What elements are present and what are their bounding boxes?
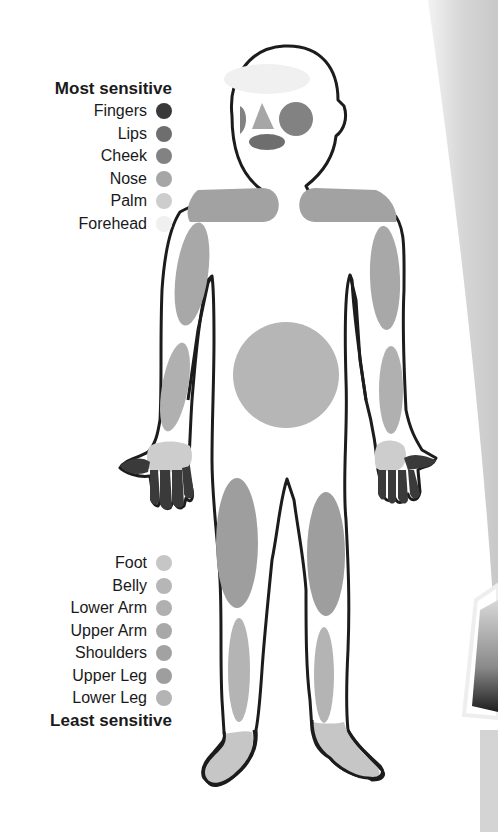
legend-title-least-sensitive: Least sensitive: [50, 710, 172, 732]
legend-label: Nose: [110, 170, 147, 188]
lips-region: [249, 134, 285, 150]
legend-label: Fingers: [94, 102, 147, 120]
legend-item-forehead: Forehead: [55, 213, 172, 236]
shoulder-region-left: [188, 188, 279, 222]
legend-dot-icon: [156, 555, 172, 571]
legend-dot-icon: [156, 103, 172, 119]
legend-item-fingers: Fingers: [55, 100, 172, 123]
shoulder-region-right: [299, 188, 396, 222]
legend-dot-icon: [156, 668, 172, 684]
legend-label: Foot: [115, 554, 147, 572]
legend-label: Lower Arm: [71, 599, 147, 617]
belly-region: [233, 322, 339, 428]
legend-dot-icon: [156, 148, 172, 164]
legend-item-palm: Palm: [55, 190, 172, 213]
lower-leg-region-right: [314, 627, 334, 723]
legend-label: Shoulders: [75, 644, 147, 662]
legend-title-most-sensitive: Most sensitive: [55, 78, 172, 100]
legend-label: Lips: [118, 125, 147, 143]
legend-dot-icon: [156, 126, 172, 142]
legend-dot-icon: [156, 623, 172, 639]
legend-dot-icon: [156, 600, 172, 616]
legend-item-lower-arm: Lower Arm: [50, 597, 172, 620]
legend-item-foot: Foot: [50, 552, 172, 575]
legend-item-lower-leg: Lower Leg: [50, 687, 172, 710]
legend-item-cheek: Cheek: [55, 145, 172, 168]
legend-label: Upper Leg: [72, 667, 147, 685]
legend-item-nose: Nose: [55, 168, 172, 191]
upper-leg-region-right: [307, 492, 345, 616]
legend-dot-icon: [156, 645, 172, 661]
legend-least-sensitive: Foot Belly Lower Arm Upper Arm Shoulders…: [50, 552, 172, 732]
forehead-region: [224, 64, 310, 94]
legend-item-upper-leg: Upper Leg: [50, 665, 172, 688]
upper-leg-region-left: [216, 478, 258, 608]
legend-dot-icon: [156, 193, 172, 209]
legend-most-sensitive: Most sensitive Fingers Lips Cheek Nose P…: [55, 78, 172, 235]
lower-arm-region-right: [379, 346, 403, 434]
legend-dot-icon: [156, 216, 172, 232]
legend-item-shoulders: Shoulders: [50, 642, 172, 665]
legend-item-belly: Belly: [50, 575, 172, 598]
legend-item-upper-arm: Upper Arm: [50, 620, 172, 643]
legend-label: Upper Arm: [71, 622, 147, 640]
legend-label: Belly: [112, 577, 147, 595]
lower-leg-region-left: [228, 618, 250, 722]
legend-label: Cheek: [101, 147, 147, 165]
cheek-region-right: [279, 102, 313, 136]
palm-region-right: [375, 440, 406, 471]
legend-item-lips: Lips: [55, 123, 172, 146]
legend-dot-icon: [156, 690, 172, 706]
legend-label: Forehead: [79, 215, 148, 233]
legend-dot-icon: [156, 171, 172, 187]
legend-label: Lower Leg: [72, 689, 147, 707]
legend-label: Palm: [111, 192, 147, 210]
legend-dot-icon: [156, 578, 172, 594]
